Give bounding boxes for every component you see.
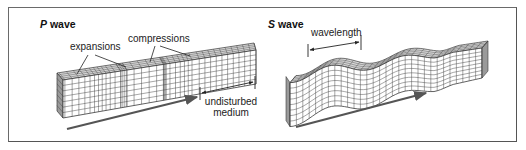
wavelength-span-arrow-icon bbox=[310, 42, 359, 50]
undisturbed-label: undisturbed bbox=[204, 97, 258, 107]
s-wave-block-icon bbox=[286, 41, 488, 127]
expansions-label: expansions bbox=[70, 42, 121, 52]
s-wave-title: S wave bbox=[268, 19, 304, 30]
wavelength-label: wavelength bbox=[311, 28, 362, 38]
p-wave-title: P wave bbox=[40, 19, 76, 30]
leader-line bbox=[160, 46, 190, 56]
seismic-waves-illustration bbox=[0, 0, 526, 150]
compressions-label: compressions bbox=[128, 34, 190, 44]
medium-label: medium bbox=[204, 108, 258, 118]
